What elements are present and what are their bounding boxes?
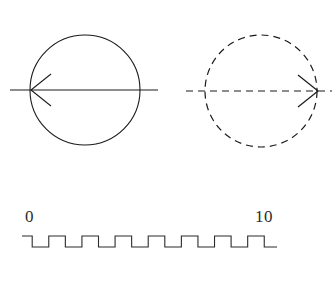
square-wave-trace [22, 236, 277, 247]
wave-start-label: 0 [25, 207, 34, 226]
right-circle-panel [186, 35, 332, 147]
wave-end-label: 10 [255, 207, 273, 226]
square-wave-panel: 0 10 [22, 207, 277, 247]
figure-root: 0 10 [0, 0, 336, 300]
diagram-canvas: 0 10 [0, 0, 336, 300]
left-circle-panel [10, 35, 158, 145]
